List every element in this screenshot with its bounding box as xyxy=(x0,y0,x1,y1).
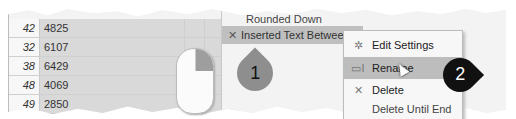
step-rounded-down[interactable]: Rounded Down xyxy=(246,13,322,25)
row-index: 32 xyxy=(9,38,40,56)
step-inserted-text[interactable]: ✕Inserted Text Between Delimiters xyxy=(222,26,363,44)
row-value: 4825 xyxy=(40,19,239,37)
callout-number: 1 xyxy=(250,63,260,84)
close-icon: ✕ xyxy=(344,84,372,97)
row-index: 42 xyxy=(9,19,40,37)
row-index: 49 xyxy=(9,95,40,113)
row-index: 38 xyxy=(9,57,40,75)
menu-item-delete-until-end[interactable]: Delete Until End xyxy=(344,101,462,117)
right-mouse-button-icon xyxy=(196,49,213,71)
row-index: 48 xyxy=(9,76,40,94)
mouse-split xyxy=(195,49,196,71)
menu-item-label: Delete xyxy=(372,84,404,96)
rename-icon: ▭I xyxy=(344,62,372,75)
close-icon[interactable]: ✕ xyxy=(228,29,237,41)
callout-number: 2 xyxy=(455,65,465,86)
menu-item-label: Delete Until End xyxy=(372,103,452,115)
mouse-icon xyxy=(176,48,214,114)
menu-item-label: Edit Settings xyxy=(372,39,434,51)
menu-item-edit-settings[interactable]: ✲Edit Settings xyxy=(344,34,462,56)
gear-icon: ✲ xyxy=(344,39,372,52)
